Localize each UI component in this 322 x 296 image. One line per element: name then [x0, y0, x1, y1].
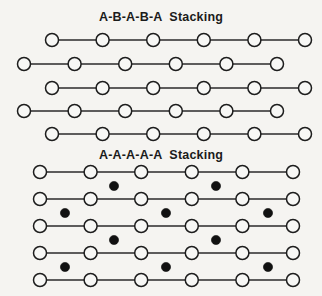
- open-atom: [197, 128, 210, 141]
- atom-row: [46, 82, 312, 95]
- aa-stacking-lattice: [0, 148, 322, 296]
- open-atom: [34, 193, 47, 206]
- open-atom: [46, 82, 59, 95]
- open-atom: [119, 58, 132, 71]
- open-atom: [34, 247, 47, 260]
- open-atom: [197, 82, 210, 95]
- open-atom: [135, 274, 148, 287]
- open-atom: [147, 82, 160, 95]
- open-atom: [185, 166, 198, 179]
- open-atom: [185, 247, 198, 260]
- open-atom: [220, 105, 233, 118]
- open-atom: [34, 274, 47, 287]
- filled-atom: [263, 208, 272, 217]
- atom-row: [34, 166, 300, 179]
- open-atom: [135, 193, 148, 206]
- open-atom: [46, 34, 59, 47]
- ab-stacking-lattice: [0, 0, 322, 148]
- open-atom: [236, 220, 249, 233]
- filled-atom: [161, 262, 170, 271]
- open-atom: [96, 82, 109, 95]
- open-atom: [68, 58, 81, 71]
- open-atom: [248, 34, 261, 47]
- filled-atom: [161, 208, 170, 217]
- open-atom: [84, 274, 97, 287]
- open-atom: [135, 220, 148, 233]
- open-atom: [287, 166, 300, 179]
- atom-row: [34, 220, 300, 233]
- open-atom: [34, 220, 47, 233]
- filled-atom: [263, 262, 272, 271]
- open-atom: [299, 34, 312, 47]
- open-atom: [18, 58, 31, 71]
- open-atom: [119, 105, 132, 118]
- open-atom: [84, 247, 97, 260]
- filled-atom: [109, 181, 118, 190]
- open-atom: [271, 105, 284, 118]
- filled-atom: [60, 262, 69, 271]
- open-atom: [96, 34, 109, 47]
- open-atom: [46, 128, 59, 141]
- open-atom: [248, 82, 261, 95]
- atom-row: [34, 193, 300, 206]
- open-atom: [147, 34, 160, 47]
- atom-row: [34, 274, 300, 287]
- open-atom: [287, 274, 300, 287]
- open-atom: [68, 105, 81, 118]
- open-atom: [18, 105, 31, 118]
- open-atom: [287, 220, 300, 233]
- open-atom: [299, 82, 312, 95]
- filled-atom: [211, 235, 220, 244]
- open-atom: [236, 274, 249, 287]
- open-atom: [185, 274, 198, 287]
- open-atom: [197, 34, 210, 47]
- interstitial-row: [60, 208, 272, 217]
- atom-row: [34, 247, 300, 260]
- open-atom: [147, 128, 160, 141]
- open-atom: [135, 247, 148, 260]
- atom-row: [46, 34, 312, 47]
- interstitial-row: [109, 181, 220, 190]
- open-atom: [34, 166, 47, 179]
- open-atom: [236, 247, 249, 260]
- open-atom: [271, 58, 284, 71]
- open-atom: [220, 58, 233, 71]
- interstitial-row: [109, 235, 220, 244]
- filled-atom: [211, 181, 220, 190]
- atom-row: [18, 105, 284, 118]
- open-atom: [84, 193, 97, 206]
- filled-atom: [109, 235, 118, 244]
- open-atom: [248, 128, 261, 141]
- open-atom: [185, 193, 198, 206]
- open-atom: [236, 166, 249, 179]
- atom-row: [18, 58, 284, 71]
- open-atom: [236, 193, 249, 206]
- open-atom: [185, 220, 198, 233]
- filled-atom: [60, 208, 69, 217]
- aa-stacking-panel: A-A-A-A-A Stacking: [0, 148, 322, 296]
- ab-stacking-panel: A-B-A-B-A Stacking: [0, 0, 322, 148]
- open-atom: [169, 105, 182, 118]
- open-atom: [84, 166, 97, 179]
- open-atom: [299, 128, 312, 141]
- open-atom: [287, 193, 300, 206]
- interstitial-row: [60, 262, 272, 271]
- atom-row: [46, 128, 312, 141]
- open-atom: [135, 166, 148, 179]
- open-atom: [84, 220, 97, 233]
- open-atom: [96, 128, 109, 141]
- open-atom: [287, 247, 300, 260]
- stacking-figure: A-B-A-B-A Stacking A-A-A-A-A Stacking: [0, 0, 322, 296]
- open-atom: [169, 58, 182, 71]
